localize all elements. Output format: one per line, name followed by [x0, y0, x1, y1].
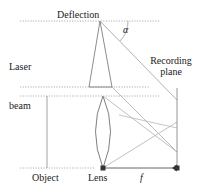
optical-diagram-figure: Deflection α Laser Recording plane beam …	[0, 0, 201, 192]
label-beam: beam	[9, 100, 31, 111]
focal-axis-end-marker	[175, 166, 180, 171]
ray-from-lens-top	[103, 96, 177, 152]
label-recording-plane: Recording plane	[143, 55, 199, 77]
label-object: Object	[32, 172, 59, 183]
diagram-canvas	[0, 0, 201, 192]
label-deflection: Deflection	[57, 9, 99, 20]
label-laser: Laser	[9, 61, 31, 72]
lens-biconvex	[96, 96, 111, 168]
label-angle-alpha: α	[123, 24, 128, 35]
label-lens: Lens	[88, 172, 107, 183]
laser-beam-triangle	[89, 21, 112, 87]
ray-converging-auxiliary	[119, 115, 177, 128]
focal-axis-start-marker	[101, 166, 106, 171]
label-focal-length: f	[140, 172, 143, 183]
ray-from-lens-bottom	[103, 122, 177, 168]
